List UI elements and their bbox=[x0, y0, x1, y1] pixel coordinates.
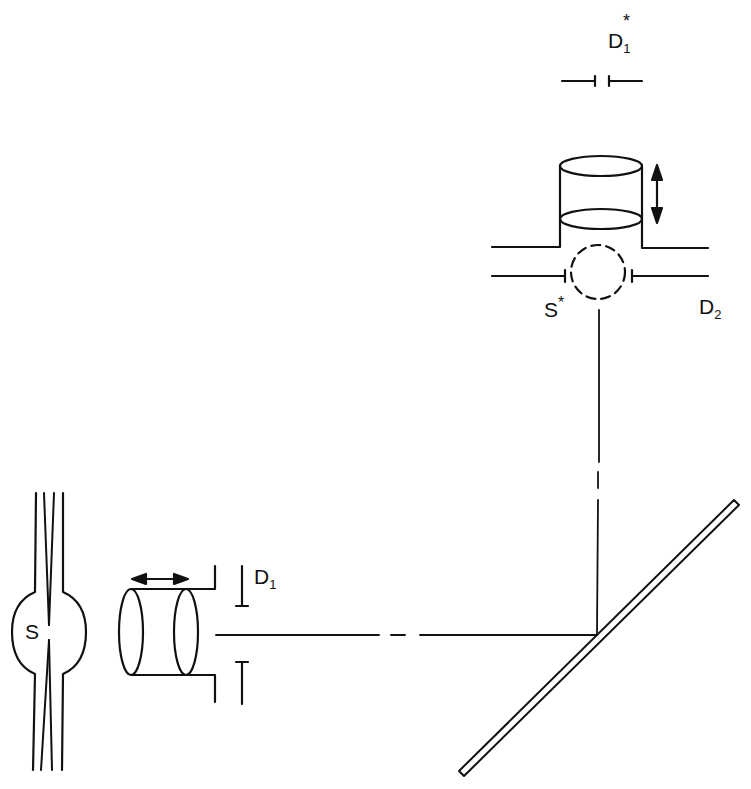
label-subscript: 2 bbox=[714, 307, 721, 322]
label-text: S bbox=[544, 298, 558, 321]
label-d1-star: D1 bbox=[608, 30, 630, 55]
diaphragm-d2 bbox=[492, 270, 708, 282]
vertical-beam bbox=[597, 310, 599, 634]
label-subscript: 1 bbox=[623, 41, 630, 56]
label-superscript: * bbox=[623, 11, 630, 31]
label-text: D bbox=[254, 565, 269, 588]
label-d1-star-asterisk: * bbox=[623, 12, 630, 30]
mirror bbox=[459, 500, 739, 776]
vertical-lens-cylinder bbox=[492, 156, 708, 248]
optical-diagram: S D1 S* D2 D1 * bbox=[0, 0, 751, 789]
label-d1: D1 bbox=[254, 566, 276, 591]
label-text: D bbox=[608, 29, 623, 52]
label-superscript: * bbox=[558, 294, 564, 311]
diagram-drawing bbox=[0, 0, 751, 789]
label-s-star: S* bbox=[544, 295, 564, 320]
label-d2: D2 bbox=[699, 296, 721, 321]
label-text: S bbox=[25, 620, 39, 643]
source-image-s-star bbox=[571, 245, 625, 299]
label-subscript: 1 bbox=[269, 577, 276, 592]
diaphragm-d1-star bbox=[562, 76, 642, 86]
horizontal-lens-cylinder bbox=[119, 566, 215, 702]
label-source-s: S bbox=[25, 621, 39, 642]
source-lamp bbox=[12, 493, 86, 770]
vertical-double-arrow-icon bbox=[652, 165, 662, 223]
horizontal-double-arrow-icon bbox=[132, 574, 188, 584]
label-text: D bbox=[699, 295, 714, 318]
